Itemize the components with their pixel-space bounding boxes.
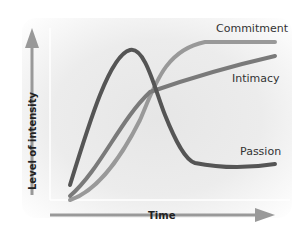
y-axis-label: Level of intensity bbox=[27, 92, 38, 190]
y-axis-arrow-icon bbox=[25, 28, 39, 48]
chart-svg: Commitment Intimacy Passion Time Level o… bbox=[0, 0, 302, 235]
series-passion-line bbox=[70, 50, 275, 185]
x-axis-label: Time bbox=[148, 210, 176, 221]
series-commitment-line bbox=[70, 42, 275, 200]
label-intimacy: Intimacy bbox=[232, 72, 280, 85]
label-passion: Passion bbox=[240, 145, 281, 158]
x-axis-arrow-icon bbox=[255, 208, 275, 222]
label-commitment: Commitment bbox=[216, 22, 289, 35]
chart: Commitment Intimacy Passion Time Level o… bbox=[0, 0, 302, 235]
